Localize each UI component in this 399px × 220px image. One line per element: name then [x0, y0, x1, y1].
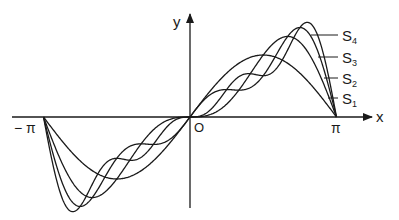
tick-neg-pi: − π: [14, 120, 36, 136]
legend-s1: S1: [342, 90, 357, 109]
legend-s2: S2: [342, 70, 357, 89]
y-axis-label: y: [173, 13, 181, 30]
tick-pi: π: [331, 120, 341, 136]
x-axis-label: x: [376, 108, 384, 125]
tick-origin: O: [194, 120, 204, 135]
legend-s3: S3: [342, 49, 357, 68]
legend-s4: S4: [342, 27, 357, 46]
fourier-chart: S4 S3 S2 S1 y x − π O π: [0, 0, 399, 220]
